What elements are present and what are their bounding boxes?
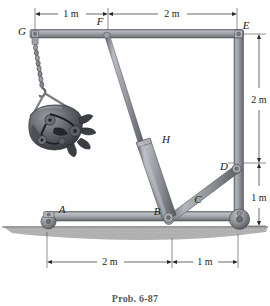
figure-container: 1 m 2 m 2 m 1 m xyxy=(0,0,270,306)
joint-label-G: G xyxy=(18,25,26,37)
dim-label-right-2m: 2 m xyxy=(251,94,267,105)
load-engine xyxy=(29,105,96,157)
pin-joint-E xyxy=(235,30,243,37)
dim-label-right-1m: 1 m xyxy=(251,192,267,203)
caster-wheel-A xyxy=(41,212,56,230)
joint-label-B: B xyxy=(154,205,161,217)
member-boom-GE xyxy=(30,30,243,39)
member-hydraulic-cylinder-H xyxy=(104,32,176,220)
pin-joint-B xyxy=(164,213,174,223)
pin-joint-D xyxy=(232,164,241,173)
dim-label-bottom-2m: 2 m xyxy=(102,256,118,267)
ground-surface xyxy=(2,226,268,240)
joint-label-F: F xyxy=(96,15,104,27)
joint-label-E: E xyxy=(242,19,250,31)
caster-wheel-C xyxy=(229,209,249,229)
dim-label-bottom-1m: 1 m xyxy=(197,256,213,267)
dimension-right-1m: 1 m xyxy=(248,163,267,226)
joint-label-A: A xyxy=(58,203,66,215)
dimension-top-2m: 2 m xyxy=(108,8,237,30)
dim-label-top-1m: 1 m xyxy=(63,8,79,19)
dim-label-top-2m: 2 m xyxy=(164,8,180,19)
member-base-beam-AC xyxy=(45,212,243,222)
engineering-diagram: 1 m 2 m 2 m 1 m xyxy=(0,0,270,306)
joint-label-D: D xyxy=(219,160,228,172)
figure-caption: Prob. 6-87 xyxy=(0,291,270,306)
joint-label-C: C xyxy=(194,193,202,205)
member-label-H: H xyxy=(161,133,171,145)
load-chain xyxy=(32,38,45,97)
pin-joint-G xyxy=(32,31,39,38)
member-mast-EC xyxy=(234,30,244,222)
